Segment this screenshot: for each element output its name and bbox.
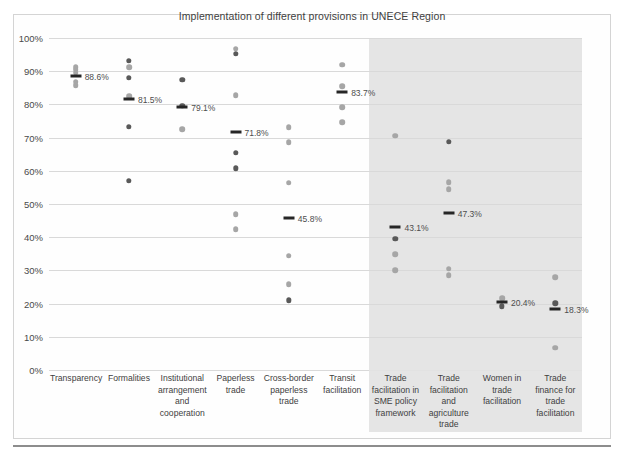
data-point: [179, 127, 185, 133]
mean-marker: [283, 216, 294, 219]
data-point: [286, 298, 291, 303]
x-axis-category-label: Formalities: [103, 373, 154, 385]
mean-marker: [177, 106, 188, 109]
gridline: [49, 204, 582, 205]
mean-marker: [337, 91, 348, 94]
mean-marker: [497, 301, 508, 304]
data-point: [126, 75, 131, 80]
data-point: [393, 251, 399, 257]
mean-marker: [123, 98, 134, 101]
gridline: [49, 71, 582, 72]
data-point: [126, 58, 131, 63]
gridline: [49, 337, 582, 338]
data-point: [233, 51, 238, 56]
chart-title: Implementation of different provisions i…: [0, 10, 624, 22]
mean-value-label: 71.8%: [245, 128, 269, 138]
data-point: [393, 133, 399, 139]
y-axis-tick-label: 80%: [24, 99, 43, 110]
data-point: [233, 226, 239, 232]
data-point: [339, 62, 345, 68]
x-axis-category-label: Trade finance for trade facilitation: [530, 373, 581, 419]
mean-value-label: 43.1%: [404, 223, 428, 233]
gridline: [49, 270, 582, 271]
y-axis-tick-label: 10%: [24, 331, 43, 342]
y-axis-tick-label: 30%: [24, 265, 43, 276]
data-point: [126, 64, 132, 70]
y-axis-tick-label: 60%: [24, 165, 43, 176]
data-point: [286, 180, 292, 186]
data-point: [339, 84, 345, 90]
data-point: [446, 179, 452, 185]
mean-value-label: 81.5%: [138, 95, 162, 105]
x-axis-category-label: Institutional arrangement and cooperatio…: [157, 373, 208, 419]
data-point: [286, 139, 292, 145]
x-axis-category-label: Women in trade facilitation: [476, 373, 527, 408]
x-axis-category-label: Paperless trade: [210, 373, 261, 396]
mean-value-label: 45.8%: [298, 214, 322, 224]
x-axis-category-label: Trade facilitation and agriculture trade: [423, 373, 474, 431]
mean-value-label: 79.1%: [191, 103, 215, 113]
data-point: [73, 82, 79, 88]
gridline: [49, 237, 582, 238]
y-axis-tick-label: 70%: [24, 132, 43, 143]
mean-value-label: 18.3%: [564, 305, 588, 315]
mean-marker: [443, 211, 454, 214]
data-point: [233, 211, 239, 217]
figure-bottom-rule: [13, 445, 611, 447]
mean-value-label: 88.6%: [85, 72, 109, 82]
x-axis-category-label: Transit facilitation: [317, 373, 368, 396]
data-point: [339, 120, 345, 126]
data-point: [233, 150, 238, 155]
gridline: [49, 171, 582, 172]
mean-marker: [550, 308, 561, 311]
data-point: [126, 178, 131, 183]
data-point: [233, 92, 239, 98]
data-point: [339, 105, 345, 111]
data-point: [180, 77, 185, 82]
mean-marker: [230, 130, 241, 133]
gridline: [49, 104, 582, 105]
data-point: [553, 275, 559, 281]
data-point: [126, 124, 131, 129]
x-axis-labels: TransparencyFormalitiesInstitutional arr…: [49, 373, 582, 435]
mean-marker: [70, 74, 81, 77]
y-axis-tick-label: 90%: [24, 66, 43, 77]
y-axis-tick-label: 0%: [29, 365, 43, 376]
data-point: [446, 272, 452, 278]
mean-value-label: 47.3%: [458, 209, 482, 219]
gridline: [49, 138, 582, 139]
gridline: [49, 38, 582, 39]
data-point: [286, 281, 292, 287]
mean-value-label: 20.4%: [511, 298, 535, 308]
x-axis-category-label: Trade facilitation in SME policy framewo…: [370, 373, 421, 419]
mean-marker: [390, 225, 401, 228]
data-point: [446, 266, 452, 272]
x-axis-category-label: Transparency: [50, 373, 101, 385]
data-point: [286, 124, 292, 130]
data-point: [446, 187, 452, 193]
y-axis-tick-label: 50%: [24, 199, 43, 210]
mean-value-label: 83.7%: [351, 88, 375, 98]
y-axis-tick-label: 100%: [19, 33, 43, 44]
y-axis-tick-label: 40%: [24, 232, 43, 243]
x-axis-category-label: Cross-border paperless trade: [263, 373, 314, 408]
data-point: [553, 345, 559, 351]
plot-area: 0%10%20%30%40%50%60%70%80%90%100%88.6%81…: [49, 38, 582, 370]
data-point: [393, 267, 399, 273]
y-axis-tick-label: 20%: [24, 298, 43, 309]
data-point: [286, 253, 292, 259]
